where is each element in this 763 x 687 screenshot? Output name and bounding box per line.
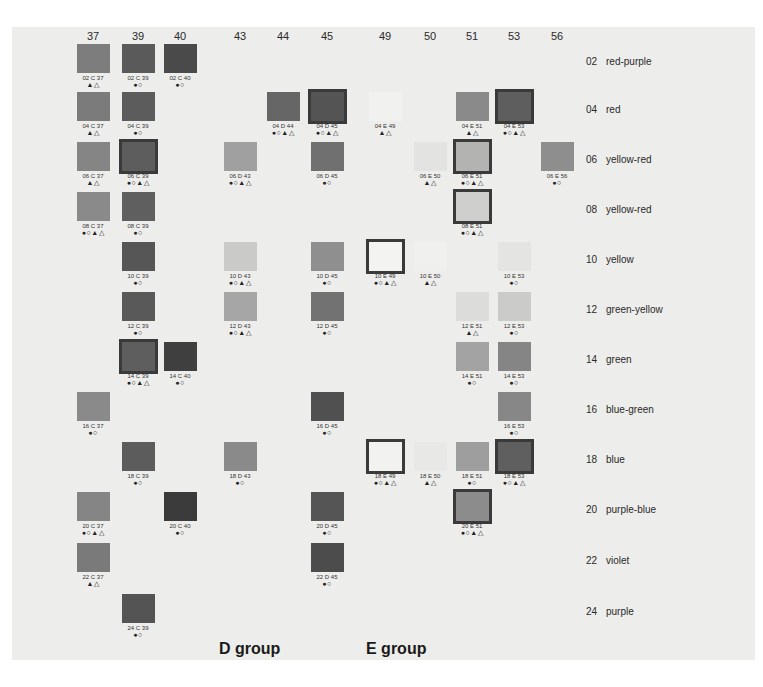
swatch-symbols-icon: ●○: [527, 179, 587, 186]
color-patch: [122, 292, 155, 321]
row-hue: blue: [606, 454, 625, 465]
framed-color-patch: [453, 139, 492, 174]
swatch-symbols-icon: ●○: [297, 329, 357, 336]
swatch-symbols-icon: ●○: [108, 229, 168, 236]
row-code: 08: [586, 204, 606, 215]
swatch-symbols-icon: ●○▲△: [210, 329, 270, 336]
color-patch: [498, 342, 531, 371]
swatch-symbols-icon: ●○: [108, 129, 168, 136]
color-patch: [122, 92, 155, 121]
color-patch: [77, 543, 110, 572]
color-patch: [224, 292, 257, 321]
row-label-18: 18blue: [586, 454, 625, 465]
row-label-16: 16blue-green: [586, 404, 654, 415]
swatch-symbols-icon: ●○: [297, 279, 357, 286]
row-hue: blue-green: [606, 404, 654, 415]
swatch-symbols-icon: ●○▲△: [442, 179, 502, 186]
row-hue: yellow-red: [606, 204, 652, 215]
color-patch: [164, 44, 197, 73]
row-hue: green: [606, 354, 632, 365]
column-header-40: 40: [160, 30, 200, 42]
row-code: 04: [586, 104, 606, 115]
color-patch: [77, 44, 110, 73]
color-patch: [541, 142, 574, 171]
color-patch: [456, 92, 489, 121]
row-label-12: 12green-yellow: [586, 304, 663, 315]
framed-color-patch: [119, 139, 158, 174]
color-patch: [456, 442, 489, 471]
swatch-symbols-icon: ●○: [210, 479, 270, 486]
d-group-label: D group: [219, 640, 280, 658]
framed-color-patch: [495, 439, 534, 474]
row-label-08: 08yellow-red: [586, 204, 652, 215]
swatch-symbols-icon: ●○: [108, 329, 168, 336]
column-header-50: 50: [410, 30, 450, 42]
row-label-04: 04red: [586, 104, 620, 115]
swatch-symbols-icon: ●○: [150, 81, 210, 88]
row-code: 06: [586, 154, 606, 165]
swatch-symbols-icon: ●○: [150, 379, 210, 386]
column-header-39: 39: [118, 30, 158, 42]
swatch-symbols-icon: ▲△: [355, 129, 415, 136]
color-patch: [224, 442, 257, 471]
swatch-symbols-icon: ●○: [108, 479, 168, 486]
swatch-symbols-icon: ●○: [484, 329, 544, 336]
color-patch: [311, 242, 344, 271]
color-patch: [77, 142, 110, 171]
color-patch: [498, 242, 531, 271]
swatch-symbols-icon: ●○▲△: [108, 179, 168, 186]
color-patch: [456, 292, 489, 321]
color-patch: [311, 292, 344, 321]
color-patch: [311, 142, 344, 171]
color-patch: [122, 442, 155, 471]
swatch-symbols-icon: ●○: [63, 429, 123, 436]
row-label-22: 22violet: [586, 555, 629, 566]
row-hue: red-purple: [606, 56, 652, 67]
row-label-14: 14green: [586, 354, 632, 365]
swatch-symbols-icon: ●○▲△: [442, 529, 502, 536]
row-code: 02: [586, 56, 606, 67]
swatch-symbols-icon: ●○: [108, 631, 168, 638]
swatch-symbols-icon: ●○▲△: [210, 179, 270, 186]
row-hue: purple-blue: [606, 504, 656, 515]
swatch-symbols-icon: ●○▲△: [484, 479, 544, 486]
color-patch: [414, 442, 447, 471]
swatch-symbols-icon: ●○: [150, 529, 210, 536]
row-hue: violet: [606, 555, 629, 566]
color-patch: [369, 92, 402, 121]
color-patch: [456, 342, 489, 371]
column-header-45: 45: [307, 30, 347, 42]
color-patch: [498, 292, 531, 321]
column-header-51: 51: [452, 30, 492, 42]
color-patch: [414, 242, 447, 271]
row-label-06: 06yellow-red: [586, 154, 652, 165]
row-label-02: 02red-purple: [586, 56, 652, 67]
row-code: 10: [586, 254, 606, 265]
framed-color-patch: [366, 439, 405, 474]
swatch-symbols-icon: ●○: [297, 580, 357, 587]
swatch-symbols-icon: ●○▲△: [210, 279, 270, 286]
swatch-symbols-icon: ●○▲△: [63, 529, 123, 536]
color-patch: [267, 92, 300, 121]
swatch-symbols-icon: ●○: [484, 379, 544, 386]
row-label-24: 24purple: [586, 606, 634, 617]
column-header-49: 49: [365, 30, 405, 42]
swatch-symbols-icon: ●○: [484, 279, 544, 286]
swatch-symbols-icon: ●○: [484, 429, 544, 436]
row-code: 24: [586, 606, 606, 617]
color-patch: [311, 392, 344, 421]
column-header-37: 37: [73, 30, 113, 42]
swatch-symbols-icon: ●○▲△: [484, 129, 544, 136]
color-patch: [122, 594, 155, 623]
swatch-symbols-icon: ▲△: [63, 580, 123, 587]
row-code: 22: [586, 555, 606, 566]
color-patch: [122, 242, 155, 271]
color-patch: [224, 142, 257, 171]
framed-color-patch: [366, 239, 405, 274]
color-patch: [164, 342, 197, 371]
row-hue: red: [606, 104, 620, 115]
swatch-symbols-icon: ●○▲△: [297, 129, 357, 136]
swatch-symbols-icon: ●○: [297, 179, 357, 186]
swatch-symbols-icon: ●○: [108, 279, 168, 286]
color-patch: [77, 392, 110, 421]
